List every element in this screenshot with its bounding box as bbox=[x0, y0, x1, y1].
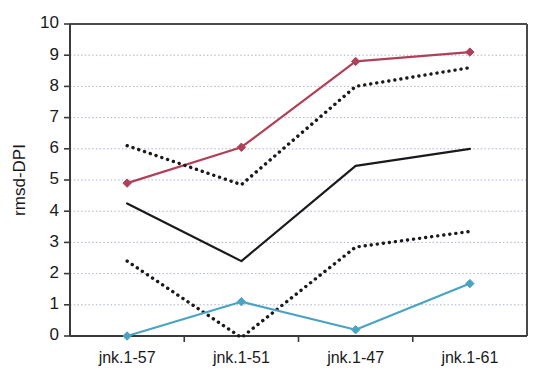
x-tick-label-3: jnk.1-61 bbox=[440, 349, 498, 366]
rmsd-dpi-line-chart: 012345678910rmsd-DPIjnk.1-57jnk.1-51jnk.… bbox=[0, 0, 542, 390]
y-tick-label-2: 2 bbox=[50, 263, 59, 282]
x-tick-label-1: jnk.1-51 bbox=[212, 349, 270, 366]
series-red bbox=[123, 48, 474, 187]
y-tick-label-5: 5 bbox=[50, 169, 59, 188]
x-tick-label-0: jnk.1-57 bbox=[98, 349, 156, 366]
series-black-solid-line bbox=[127, 149, 470, 261]
x-axis: jnk.1-57jnk.1-51jnk.1-47jnk.1-61 bbox=[98, 336, 499, 366]
y-axis-title-text: rmsd-DPI bbox=[10, 144, 29, 216]
series-black-solid bbox=[127, 149, 470, 261]
y-tick-label-4: 4 bbox=[50, 201, 59, 220]
y-tick-label-6: 6 bbox=[50, 138, 59, 157]
y-tick-label-1: 1 bbox=[50, 294, 59, 313]
y-tick-label-0: 0 bbox=[50, 325, 59, 344]
series-blue-marker-3 bbox=[466, 279, 474, 287]
series-group bbox=[123, 48, 474, 340]
y-axis: 012345678910 bbox=[40, 13, 70, 344]
series-blue-line bbox=[127, 284, 470, 336]
series-blue bbox=[123, 279, 474, 340]
y-axis-title: rmsd-DPI bbox=[10, 144, 29, 216]
y-tick-label-7: 7 bbox=[50, 107, 59, 126]
series-blue-marker-2 bbox=[351, 326, 359, 334]
series-blue-marker-0 bbox=[123, 332, 131, 340]
y-tick-label-3: 3 bbox=[50, 232, 59, 251]
chart-container: 012345678910rmsd-DPIjnk.1-57jnk.1-51jnk.… bbox=[0, 0, 542, 390]
y-tick-label-8: 8 bbox=[50, 76, 59, 95]
x-tick-label-2: jnk.1-47 bbox=[326, 349, 384, 366]
y-tick-label-9: 9 bbox=[50, 45, 59, 64]
y-tick-label-10: 10 bbox=[40, 13, 59, 32]
